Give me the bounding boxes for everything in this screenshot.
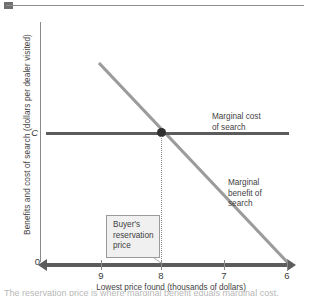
header-divider-rule bbox=[6, 5, 304, 6]
buyers-reservation-price-callout: Buyer's reservation price bbox=[106, 215, 160, 258]
figure-caption-fragment: The reservation price is where marginal … bbox=[4, 288, 304, 296]
chart-figure: Benefits and cost of search (dollars per… bbox=[0, 12, 310, 282]
